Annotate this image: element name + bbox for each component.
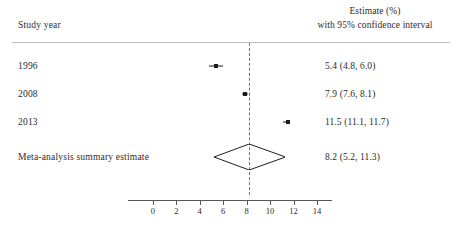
summary-row-value: 8.2 (5.2, 11.3) <box>325 152 380 162</box>
x-axis-tick-label: 4 <box>198 206 202 216</box>
x-axis-line <box>128 200 332 201</box>
estimate-marker <box>243 92 247 96</box>
summary-row-label: Meta-analysis summary estimate <box>18 152 149 162</box>
x-axis-tick-label: 0 <box>151 206 155 216</box>
column-header-estimate: Estimate (%) with 95% confidence interva… <box>290 4 460 32</box>
column-header-study-year: Study year <box>18 20 61 30</box>
x-axis-tick-label: 12 <box>289 206 298 216</box>
x-axis-tick <box>200 201 201 205</box>
x-axis-tick-label: 10 <box>266 206 275 216</box>
study-row-value: 5.4 (4.8, 6.0) <box>325 61 375 71</box>
x-axis-tick-label: 6 <box>221 206 225 216</box>
x-axis-tick <box>176 201 177 205</box>
header-divider <box>12 42 450 43</box>
x-axis-tick <box>153 201 154 205</box>
x-axis-tick <box>294 201 295 205</box>
study-row-value: 11.5 (11.1, 11.7) <box>325 117 389 127</box>
study-row-label: 2013 <box>18 117 38 127</box>
study-row-value: 7.9 (7.6, 8.1) <box>325 89 375 99</box>
estimate-marker <box>214 64 218 68</box>
x-axis-tick-label: 2 <box>174 206 178 216</box>
x-axis-tick <box>270 201 271 205</box>
x-axis-tick <box>223 201 224 205</box>
study-row-label: 1996 <box>18 61 38 71</box>
x-axis-tick-label: 14 <box>313 206 322 216</box>
column-header-estimate-line1: Estimate (%) <box>290 4 460 18</box>
estimate-marker <box>286 120 290 124</box>
reference-line <box>249 43 250 195</box>
summary-diamond <box>214 144 286 170</box>
x-axis-tick-label: 8 <box>245 206 249 216</box>
study-row-label: 2008 <box>18 89 38 99</box>
forest-plot: Study year Estimate (%) with 95% confide… <box>0 0 463 228</box>
x-axis-tick <box>247 201 248 205</box>
column-header-estimate-line2: with 95% confidence interval <box>290 18 460 32</box>
x-axis-tick <box>317 201 318 205</box>
